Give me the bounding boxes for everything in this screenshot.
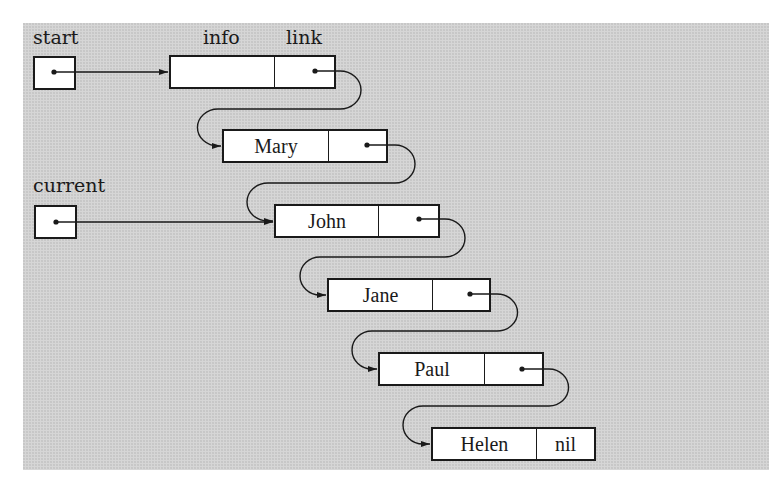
link-arrow-mary-to-john	[247, 145, 415, 221]
mary-link-dot	[364, 142, 369, 147]
current-pointer-dot	[53, 219, 58, 224]
john-link-dot	[416, 216, 421, 221]
link-arrow-paul-to-helen	[403, 369, 569, 444]
start-pointer-dot	[51, 69, 56, 74]
paul-link-dot	[519, 366, 524, 371]
link-arrow-head-to-mary	[197, 71, 361, 146]
head-link-dot	[312, 68, 317, 73]
link-arrow-jane-to-paul	[352, 294, 518, 369]
link-arrow-john-to-jane	[300, 219, 465, 295]
pointer-arrows	[0, 0, 780, 487]
jane-link-dot	[467, 291, 472, 296]
